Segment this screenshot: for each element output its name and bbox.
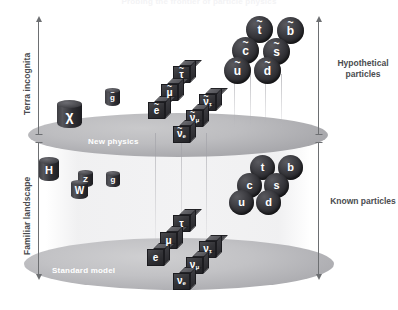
- label-hypothetical-particles: Hypothetical particles: [330, 58, 396, 80]
- cube-side-face: [178, 78, 184, 101]
- cube-front-face: e: [147, 249, 164, 266]
- particle-label-sbottom: b~: [287, 25, 294, 37]
- axis-known-particles: [318, 142, 319, 274]
- particle-label-stop: t~: [258, 24, 262, 36]
- particle-label-neutrino-tau: ντ: [203, 244, 211, 254]
- particle-sdown[interactable]: d~: [254, 57, 281, 84]
- particle-label-tau: τ: [179, 219, 183, 229]
- particle-label-bottom: b: [287, 162, 294, 173]
- cube-front-face: e~: [148, 102, 165, 119]
- particle-label-sstrange: s~: [273, 46, 280, 58]
- label-hypothetical-line2: particles: [330, 69, 396, 80]
- particle-label-smuon: μ~: [166, 88, 172, 98]
- cube-side-face: [164, 243, 170, 266]
- particle-label-sup: u~: [234, 65, 241, 77]
- particle-electron[interactable]: e: [147, 243, 170, 266]
- particle-label-electron: e: [153, 253, 159, 263]
- cube-side-face: [190, 209, 196, 232]
- cube-front-face: νe: [173, 273, 190, 290]
- page-title: Probing the frontier of particle physics: [0, 0, 398, 6]
- cube-side-face: [216, 235, 222, 258]
- particle-label-gluon: g: [111, 176, 116, 184]
- diagram-canvas: Probing the frontier of particle physics…: [0, 0, 398, 310]
- particle-label-neutralino: χ: [65, 109, 73, 123]
- label-familiar-landscape: Familiar landscape: [22, 169, 32, 255]
- axis-terra-incognita: [38, 22, 39, 135]
- particle-label-down: d: [265, 197, 272, 208]
- cylinder-body: H: [39, 161, 59, 182]
- drop-line: [281, 74, 282, 128]
- particle-down[interactable]: d: [256, 190, 281, 215]
- cylinder-top-cap: [57, 100, 82, 108]
- particle-label-sneutrino-electron: ν~e: [177, 129, 186, 139]
- arrow-up-icon: [316, 16, 322, 22]
- particle-label-gluino: g~: [110, 94, 115, 102]
- particle-gluon[interactable]: g: [106, 171, 120, 187]
- cube-front-face: ν~e: [173, 126, 190, 143]
- particle-label-muon: μ: [165, 236, 171, 246]
- cube-side-face: [177, 226, 183, 249]
- plane-label-new-physics: New physics: [88, 137, 139, 146]
- axis-hypothetical-particles: [318, 22, 319, 135]
- drop-line: [206, 133, 207, 243]
- particle-label-wboson: W: [75, 186, 84, 196]
- particle-sneutrino-tau[interactable]: ν~τ: [199, 88, 222, 111]
- cylinder-top-cap: [39, 157, 59, 164]
- particle-label-sneutrino-muon: ν~μ: [190, 113, 199, 123]
- cylinder-body: g~: [105, 91, 120, 107]
- label-known-particles: Known particles: [330, 196, 396, 207]
- drop-line: [155, 133, 156, 243]
- label-hypothetical-line1: Hypothetical: [330, 58, 396, 69]
- particle-label-sdown: d~: [264, 65, 271, 77]
- particle-neutrino-tau[interactable]: ντ: [199, 235, 222, 258]
- particle-label-stau: τ~: [179, 70, 183, 80]
- particle-label-scharm: c~: [242, 45, 249, 57]
- particle-neutralino[interactable]: χ: [57, 100, 82, 128]
- particle-label-up: u: [238, 197, 245, 208]
- particle-label-zboson: Z: [83, 176, 88, 184]
- particle-up[interactable]: u: [229, 190, 254, 215]
- cube-side-face: [190, 60, 196, 83]
- drop-line: [250, 74, 251, 128]
- particle-label-sneutrino-tau: ν~τ: [203, 97, 211, 107]
- particle-label-selectron: e~: [154, 106, 160, 116]
- plane-label-standard-model: Standard model: [52, 266, 115, 275]
- particle-label-neutrino-electron: νe: [177, 276, 186, 286]
- label-terra-incognita: Terra incognita: [22, 43, 32, 115]
- particle-label-neutrino-muon: νμ: [190, 260, 199, 270]
- cylinder-body: W: [71, 183, 88, 200]
- cube-side-face: [216, 88, 222, 111]
- particle-label-top: t: [261, 162, 265, 173]
- particle-sup[interactable]: u~: [224, 57, 251, 84]
- particle-higgs[interactable]: H: [39, 157, 59, 181]
- arrow-up-icon: [36, 16, 42, 22]
- cube-side-face: [165, 96, 171, 119]
- particle-label-charm: c: [246, 180, 252, 191]
- particle-label-higgs: H: [45, 165, 53, 176]
- particle-gluino[interactable]: g~: [105, 88, 120, 106]
- particle-label-strange: s: [273, 180, 279, 191]
- cylinder-body: χ: [57, 104, 82, 128]
- particle-selectron[interactable]: e~: [148, 96, 171, 119]
